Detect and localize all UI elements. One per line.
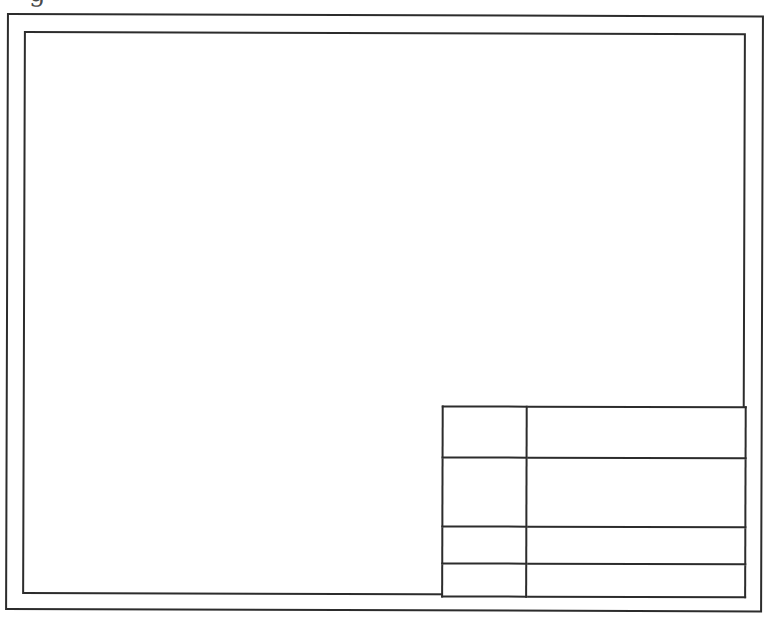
title-block: [441, 405, 747, 598]
title-block-row: [442, 526, 745, 564]
title-block-cell: [442, 457, 526, 526]
title-block-row: [442, 457, 745, 527]
title-block-cell: [526, 458, 745, 528]
title-block-cell: [527, 407, 746, 459]
title-block-cell: [442, 563, 526, 596]
title-block-row: [443, 406, 746, 458]
title-block-cell: [526, 527, 745, 565]
caption-text-fragment: g: [29, 0, 46, 5]
title-block-cell: [443, 406, 527, 457]
title-block-cell: [526, 564, 745, 598]
drawing-sheet: g: [0, 0, 773, 620]
title-block-row: [442, 563, 745, 597]
title-block-cell: [442, 526, 526, 563]
